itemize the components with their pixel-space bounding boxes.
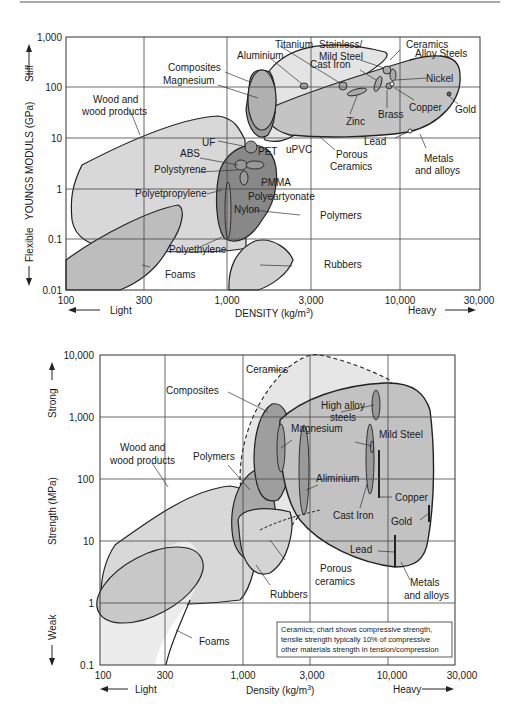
arrow-right-heavy-head-icon	[468, 307, 476, 313]
arrow-up-stiff-head-icon	[26, 44, 32, 52]
label-foams: Foams	[199, 636, 230, 647]
ellipse-polyethylene	[225, 182, 231, 238]
label-metals-2: and alloys	[415, 165, 460, 176]
label-polymers: Polymers	[193, 451, 235, 462]
label-rubbers: Rubbers	[324, 259, 362, 270]
figure-canvas: Titanium Aluminium Composites Magnesium …	[0, 0, 506, 711]
chart1-xlabel: DENSITY (kg/m3)	[235, 307, 313, 319]
ellipse-uf	[245, 141, 257, 153]
label-upvc: uPVC	[286, 144, 312, 155]
label-high-alloy-2: steels	[330, 412, 356, 423]
chart2-ylabel: Strength (MPa)	[47, 477, 58, 545]
label-porous-1: Porous	[336, 149, 368, 160]
chart1-ylabel: YOUNGS MODULS (GPa)	[24, 102, 35, 220]
chart2-light-label: Light	[135, 684, 157, 695]
arrow-right-heavy-head-icon	[446, 686, 454, 692]
ellipse-gold	[447, 92, 451, 96]
label-aliminium: Aliminium	[316, 473, 359, 484]
region-aluminium-composite	[248, 70, 276, 130]
ellipse-copper	[390, 82, 394, 86]
note-line-3: other materials strength in tension/comp…	[281, 645, 439, 654]
label-porous-1: Porous	[320, 563, 352, 574]
label-porous-2: Ceramics	[330, 161, 372, 172]
arrow-left-light-head-icon	[100, 686, 108, 692]
label-composites: Composites	[166, 385, 219, 396]
label-magnesium: Magnesium	[291, 423, 343, 434]
label-cast-iron: Cast Iron	[310, 59, 351, 70]
label-lead: Lead	[350, 544, 372, 555]
ellipse-nickel	[390, 69, 396, 81]
label-zinc: Zinc	[346, 116, 365, 127]
label-abs: ABS	[180, 148, 200, 159]
arrow-up-strong-head-icon	[49, 362, 55, 370]
label-polymers: Polymers	[320, 210, 362, 221]
ellipse-cast-iron	[366, 424, 374, 494]
chart-youngs-modulus: Titanium Aluminium Composites Magnesium …	[24, 32, 495, 319]
label-wood-2: wood products	[81, 106, 147, 117]
ellipse-pmma	[240, 171, 248, 185]
label-copper: Copper	[409, 102, 442, 113]
label-mild-steel: Mild Steel	[379, 429, 423, 440]
chart1-ytick-10: 10	[51, 133, 63, 144]
label-foams: Foams	[165, 269, 196, 280]
chart2-xtick-3000: 3,000	[299, 670, 324, 681]
chart2-heavy-label: Heavy	[393, 684, 421, 695]
chart2-xtick-300: 300	[157, 670, 174, 681]
label-high-alloy-1: High alloy	[321, 400, 365, 411]
label-aluminium: Aluminium	[237, 50, 284, 61]
chart1-xtick-1000: 1,000	[214, 295, 239, 306]
label-wood-2: wood products	[109, 455, 175, 466]
label-metals-1: Metals	[410, 577, 439, 588]
label-metals-2: and alloys	[404, 590, 449, 601]
ellipse-pet	[246, 161, 264, 169]
label-nylon: Nylon	[234, 204, 260, 215]
chart2-ytick-1000: 1,000	[69, 412, 94, 423]
label-porous-2: ceramics	[315, 576, 355, 587]
chart2-xtick-100: 100	[95, 670, 112, 681]
chart1-xtick-3000: 3,000	[298, 295, 323, 306]
chart-strength: Ceramics Composites High alloy steels Ma…	[47, 350, 478, 696]
chart2-xtick-10000: 10,000	[377, 670, 408, 681]
label-pmma: PMMA	[261, 177, 291, 188]
label-ceramics: Ceramics	[246, 364, 288, 375]
ellipse-aluminium	[299, 425, 309, 515]
chart1-heavy-label: Heavy	[408, 305, 436, 316]
chart2-xtick-1000: 1,000	[230, 670, 255, 681]
note-line-1: Ceramics; chart shows compressive streng…	[281, 625, 432, 634]
label-polycarbonate: Polyeartyonate	[248, 191, 315, 202]
ellipse-mild-steel	[371, 441, 374, 453]
label-gold: Gold	[391, 516, 412, 527]
chart2-weak-label: Weak	[47, 614, 58, 640]
label-cast-iron: Cast Iron	[333, 510, 374, 521]
chart2-ytick-100: 100	[77, 474, 94, 485]
chart1-ytick-0.1: 0.1	[48, 234, 62, 245]
label-titanium: Titanium	[275, 39, 313, 50]
chart1-xtick-30000: 30,000	[464, 295, 495, 306]
label-polyethylene: Polyethylene	[169, 244, 227, 255]
label-copper: Copper	[395, 492, 428, 503]
arrow-left-light-head-icon	[68, 307, 76, 313]
chart1-ytick-1: 1	[56, 184, 62, 195]
label-wood-1: Wood and	[120, 442, 165, 453]
chart2-ytick-10000: 10,000	[63, 350, 94, 361]
ellipse-titanium	[339, 82, 347, 90]
arrow-down-weak-head-icon	[49, 658, 55, 666]
label-composites: Composites	[168, 62, 221, 73]
chart1-ytick-1000: 1,000	[37, 32, 62, 43]
label-polystyrene: Polystyrene	[154, 164, 207, 175]
chart1-xtick-300: 300	[136, 295, 153, 306]
label-magnesium: Magnesium	[163, 75, 215, 86]
arrow-down-flexible-head-icon	[26, 278, 32, 286]
chart1-ytick-100: 100	[45, 82, 62, 93]
label-metals-1: Metals	[424, 153, 453, 164]
chart2-xlabel: Density (kg/m3)	[246, 684, 314, 696]
label-pet: PET	[258, 146, 277, 157]
label-brass: Brass	[378, 109, 404, 120]
ellipse-lead	[408, 129, 412, 133]
ellipse-aluminium	[300, 83, 308, 89]
label-gold: Gold	[455, 104, 476, 115]
label-polyetpropylene: Polyetpropylene	[135, 188, 207, 199]
label-alloy-steels: Alloy Steels	[415, 48, 467, 59]
chart2-xtick-30000: 30,000	[447, 670, 478, 681]
label-stainless-1: Stainless/	[319, 39, 363, 50]
